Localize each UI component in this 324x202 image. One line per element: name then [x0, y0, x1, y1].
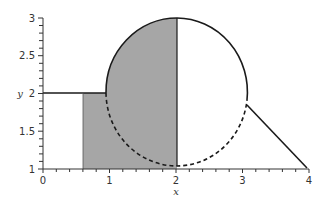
- diagonal-line: [247, 105, 307, 168]
- y-tick-label-1: 1: [29, 164, 35, 175]
- y-tick-label-1-5: 1.5: [19, 126, 35, 137]
- x-tick-label-3: 3: [239, 175, 245, 186]
- x-tick-label-1: 1: [106, 175, 112, 186]
- x-ticks: [43, 169, 309, 173]
- x-tick-label-0: 0: [40, 175, 46, 186]
- chart: 0 1 2 3 4 1 1.5 2 2.5 3 x y: [0, 0, 324, 202]
- y-ticks: [38, 18, 43, 169]
- x-tick-label-4: 4: [306, 175, 312, 186]
- y-tick-label-2-5: 2.5: [19, 50, 35, 61]
- x-axis-label: x: [173, 186, 179, 197]
- y-axis-label: y: [16, 88, 23, 99]
- y-tick-label-2: 2: [29, 88, 35, 99]
- y-tick-label-3: 3: [29, 13, 35, 24]
- x-tick-label-2: 2: [173, 175, 179, 186]
